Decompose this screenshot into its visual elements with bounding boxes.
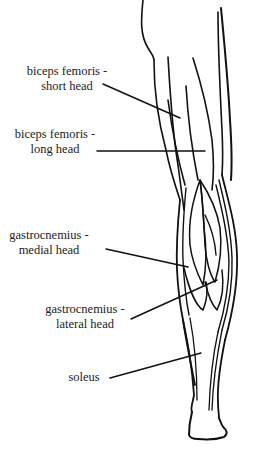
biceps-short-head-line2 — [168, 100, 185, 185]
leader-line-gastrocnemius-medial — [106, 249, 188, 267]
leader-line-gastrocnemius-lateral — [131, 280, 217, 319]
thigh-right-inner-contour — [218, 12, 223, 175]
label-line-1: gastrocnemius - — [41, 302, 129, 317]
label-biceps-femoris-long-head: biceps femoris - long head — [10, 127, 100, 157]
label-line-1: gastrocnemius - — [5, 228, 93, 243]
label-soleus: soleus — [64, 370, 104, 385]
label-line-1: soleus — [64, 370, 104, 385]
gastrocnemius-lower-lateral — [205, 270, 223, 310]
thigh-left-contour — [142, 0, 180, 200]
shin-right-contour — [218, 340, 225, 418]
leg-muscle-diagram: biceps femoris - short head biceps femor… — [0, 0, 256, 457]
leader-line-soleus — [110, 353, 201, 378]
heel-outline — [189, 412, 227, 439]
gastrocnemius-inner-divider — [205, 215, 216, 255]
label-gastrocnemius-lateral-head: gastrocnemius - lateral head — [41, 302, 129, 332]
achilles-line2 — [209, 332, 218, 410]
label-line-2: lateral head — [41, 317, 129, 332]
label-line-2: medial head — [5, 243, 93, 258]
label-line-2: long head — [10, 142, 100, 157]
label-line-1: biceps femoris - — [22, 64, 112, 79]
biceps-long-head-line — [186, 86, 198, 180]
label-line-2: short head — [22, 79, 112, 94]
label-line-1: biceps femoris - — [10, 127, 100, 142]
gastrocnemius-lateral-head-outline — [200, 180, 221, 282]
label-gastrocnemius-medial-head: gastrocnemius - medial head — [5, 228, 93, 258]
gastrocnemius-medial-head-outline — [190, 180, 206, 285]
label-biceps-femoris-short-head: biceps femoris - short head — [22, 64, 112, 94]
